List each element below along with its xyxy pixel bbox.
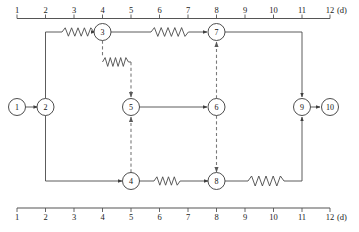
top-axis: 1 2 3 4 5 6 7 8 9 10 11 12 (d): [15, 5, 347, 19]
bottom-axis-tick-1: 1: [15, 212, 19, 222]
node-1-label: 1: [15, 103, 19, 112]
top-axis-tick-8: 8: [214, 5, 218, 15]
node-10-label: 10: [326, 103, 334, 112]
node-9-label: 9: [300, 103, 304, 112]
top-axis-tick-2: 2: [43, 5, 47, 15]
top-axis-tick-6: 6: [157, 5, 161, 15]
node-5-label: 5: [129, 103, 133, 112]
node-9[interactable]: 9: [294, 99, 311, 116]
edge-2-to-4: [46, 116, 123, 182]
bottom-axis-tick-11: 11: [298, 212, 306, 222]
network-diagram-svg: 1 2 3 4 5 6 7 8 9 10 11 12 (d): [0, 0, 359, 232]
bottom-axis-tick-7: 7: [186, 212, 190, 222]
node-4[interactable]: 4: [123, 173, 140, 190]
edge-2-to-3: [46, 28, 96, 99]
node-8-label: 8: [215, 177, 219, 186]
bottom-axis-tick-8: 8: [214, 212, 218, 222]
bottom-axis-tick-2: 2: [43, 212, 47, 222]
top-axis-tick-4: 4: [100, 5, 105, 15]
top-axis-tick-12: 12: [326, 5, 335, 15]
node-5[interactable]: 5: [123, 99, 140, 116]
bottom-axis-ticks: [17, 208, 330, 212]
node-4-label: 4: [129, 177, 133, 186]
bottom-axis-tick-10: 10: [269, 212, 278, 222]
node-7[interactable]: 7: [208, 24, 225, 41]
bottom-axis-unit-label: (d): [337, 212, 347, 222]
node-6-label: 6: [215, 103, 219, 112]
edge-3-to-7: [111, 28, 207, 37]
top-axis-tick-7: 7: [186, 5, 190, 15]
bottom-axis-tick-12: 12: [326, 212, 335, 222]
top-axis-tick-1: 1: [15, 5, 19, 15]
node-8[interactable]: 8: [208, 173, 225, 190]
top-axis-tick-9: 9: [243, 5, 247, 15]
top-axis-ticks: [17, 15, 330, 19]
top-axis-tick-3: 3: [72, 5, 76, 15]
node-1[interactable]: 1: [9, 99, 26, 116]
bottom-axis-tick-5: 5: [129, 212, 133, 222]
node-3-label: 3: [101, 28, 105, 37]
node-7-label: 7: [215, 28, 219, 37]
bottom-axis-tick-4: 4: [100, 212, 105, 222]
edge-3-to-5: [103, 41, 132, 98]
node-2-label: 2: [44, 103, 48, 112]
node-6[interactable]: 6: [208, 99, 225, 116]
node-2[interactable]: 2: [37, 99, 54, 116]
bottom-axis-tick-6: 6: [157, 212, 161, 222]
edge-7-to-9: [225, 32, 302, 97]
top-axis-tick-11: 11: [298, 5, 306, 15]
bottom-axis-tick-9: 9: [243, 212, 247, 222]
network-diagram-canvas: 1 2 3 4 5 6 7 8 9 10 11 12 (d): [0, 0, 359, 232]
top-axis-tick-10: 10: [269, 5, 278, 15]
edge-4-to-8: [140, 177, 209, 185]
bottom-axis: 1 2 3 4 5 6 7 8 9 10 11 12 (d): [15, 208, 347, 222]
edge-8-to-9: [225, 117, 302, 186]
node-10[interactable]: 10: [322, 99, 339, 116]
top-axis-unit-label: (d): [337, 5, 347, 15]
bottom-axis-tick-3: 3: [72, 212, 76, 222]
node-3[interactable]: 3: [94, 24, 111, 41]
top-axis-tick-5: 5: [129, 5, 133, 15]
